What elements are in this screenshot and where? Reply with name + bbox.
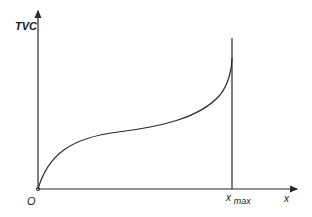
xmax-label: x max (225, 192, 251, 206)
tvc-curve (38, 58, 232, 189)
xmax-label-main: x (225, 192, 232, 203)
xmax-label-sub: max (234, 196, 252, 206)
origin-label: O (27, 195, 36, 207)
y-axis-label: TVC (15, 20, 38, 32)
x-axis-label: x (283, 193, 290, 204)
tvc-diagram: TVC O x max x (0, 0, 312, 217)
